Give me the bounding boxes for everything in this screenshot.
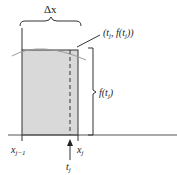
delta-x-label: Δx	[44, 3, 57, 15]
riemann-rectangle-diagram: Δx f(tj) (tj, f(tj)) xj−1 xj tj	[0, 0, 177, 175]
height-label: f(tj)	[99, 87, 114, 100]
point-label: (tj, f(tj))	[103, 27, 134, 40]
delta-x-brace	[20, 17, 81, 26]
point-leader-line	[77, 35, 100, 47]
x-right-label: xj	[76, 144, 83, 157]
arrow-up-icon	[67, 139, 73, 146]
x-left-label: xj−1	[10, 144, 26, 157]
t-label: tj	[66, 161, 71, 174]
height-brace	[88, 48, 96, 135]
